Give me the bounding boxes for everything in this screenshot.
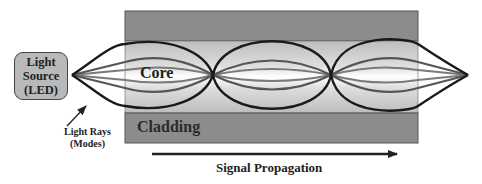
source-label-line1: Light — [26, 55, 55, 69]
cladding-label: Cladding — [137, 118, 200, 136]
rays-label-line1: Light Rays — [64, 126, 111, 138]
fiber-diagram-graphic — [0, 0, 482, 184]
rays-pointer-arrow — [67, 106, 86, 126]
cladding-top — [125, 11, 418, 41]
light-rays-label: Light Rays (Modes) — [64, 126, 111, 150]
core-label: Core — [140, 64, 173, 82]
fiber-optic-diagram: Light Source (LED) Core Cladding Light R… — [0, 0, 482, 184]
light-source-box: Light Source (LED) — [14, 52, 68, 100]
rays-label-line2: (Modes) — [64, 138, 111, 150]
signal-propagation-label: Signal Propagation — [216, 160, 322, 176]
source-label-line2: Source — [23, 69, 60, 83]
source-label-line3: (LED) — [24, 83, 58, 97]
